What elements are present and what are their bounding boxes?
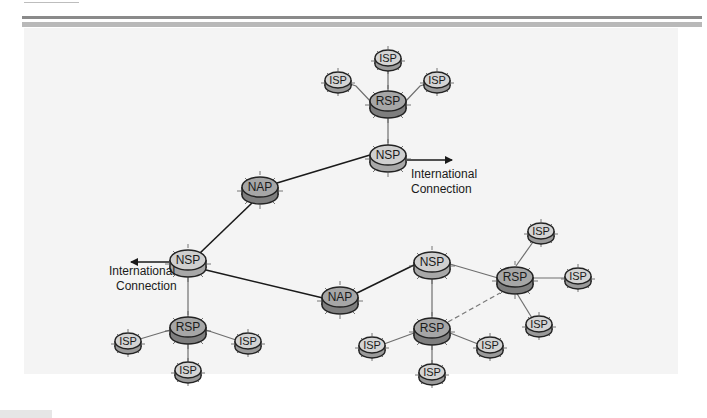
svg-text:NAP: NAP [248, 180, 273, 194]
svg-text:International: International [109, 264, 175, 278]
svg-text:ISP: ISP [428, 74, 446, 86]
edge-rsp-right-isp-right-n [516, 242, 533, 266]
svg-text:ISP: ISP [239, 335, 257, 347]
node-rsp-mid: RSP [409, 312, 455, 350]
node-isp-mid-s: ISP [415, 360, 449, 388]
node-isp-top-e: ISP [420, 68, 454, 96]
svg-text:ISP: ISP [363, 339, 381, 351]
node-rsp-left: RSP [165, 311, 211, 349]
international-connection-label-left: International Connection [109, 264, 177, 293]
edge-rsp-right-isp-right-s [516, 292, 532, 318]
node-isp-mid-e: ISP [473, 333, 507, 361]
svg-text:NSP: NSP [420, 255, 445, 269]
svg-text:RSP: RSP [376, 94, 401, 108]
svg-text:ISP: ISP [530, 318, 548, 330]
node-isp-left-w: ISP [111, 329, 145, 357]
svg-text:Connection: Connection [116, 279, 177, 293]
svg-text:Connection: Connection [411, 182, 472, 196]
svg-text:ISP: ISP [532, 225, 550, 237]
edge-rsp-mid-isp-mid-e [450, 333, 478, 344]
svg-text:NSP: NSP [376, 148, 401, 162]
node-isp-left-e: ISP [231, 329, 265, 357]
svg-text:NAP: NAP [328, 290, 353, 304]
svg-text:ISP: ISP [423, 366, 441, 378]
node-isp-mid-w: ISP [355, 333, 389, 361]
node-isp-top-w: ISP [321, 68, 355, 96]
international-connection-label-right: International Connection [411, 167, 477, 196]
svg-text:ISP: ISP [329, 74, 347, 86]
edge-nsp-top-nap-upper [277, 155, 370, 183]
node-isp-left-s: ISP [171, 358, 205, 386]
svg-text:RSP: RSP [176, 320, 201, 334]
svg-text:ISP: ISP [481, 339, 499, 351]
node-nsp-top: NSP [365, 139, 411, 177]
svg-text:ISP: ISP [379, 52, 397, 64]
edge-rsp-mid-isp-mid-w [384, 333, 414, 344]
edge-isp-top-e-rsp-top [404, 84, 426, 103]
edge-nsp-right-rsp-right [450, 264, 498, 278]
node-isp-right-e: ISP [561, 264, 595, 292]
svg-text:International: International [411, 167, 477, 181]
node-nsp-right: NSP [409, 246, 455, 284]
node-nap-upper: NAP [237, 171, 283, 209]
node-isp-top-n: ISP [371, 46, 405, 74]
edge-nap-upper-nsp-left [200, 203, 252, 253]
svg-text:ISP: ISP [179, 364, 197, 376]
edge-isp-top-w-rsp-top [350, 84, 372, 103]
node-isp-right-n: ISP [524, 219, 558, 247]
svg-text:ISP: ISP [119, 335, 137, 347]
node-nap-lower: NAP [317, 281, 363, 319]
node-isp-right-s: ISP [522, 312, 556, 340]
network-diagram: ISP ISP ISP RSP NSP NAP NSP RSP [0, 0, 707, 418]
edge-rsp-left-isp-left-e [206, 330, 236, 340]
edge-nap-lower-nsp-right [357, 265, 414, 293]
svg-text:RSP: RSP [420, 321, 445, 335]
edge-nsp-left-nap-lower [206, 270, 323, 298]
svg-text:RSP: RSP [503, 270, 528, 284]
svg-text:ISP: ISP [569, 270, 587, 282]
edge-rsp-mid-rsp-right-dashed [448, 293, 500, 322]
nodes: ISP ISP ISP RSP NSP NAP NSP RSP [111, 46, 595, 388]
node-rsp-top: RSP [365, 85, 411, 123]
svg-text:NSP: NSP [176, 253, 201, 267]
